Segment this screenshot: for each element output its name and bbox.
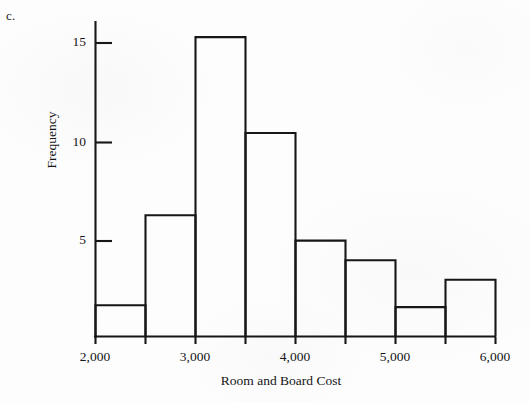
x-tick-label-4000: 4,000 bbox=[280, 349, 311, 364]
y-tick-label-5: 5 bbox=[79, 232, 86, 247]
x-tick-label-2000: 2,000 bbox=[80, 349, 111, 364]
histogram-bar bbox=[396, 307, 446, 336]
histogram-bars bbox=[96, 37, 496, 336]
histogram-bar bbox=[296, 241, 346, 337]
y-tick-label-10: 10 bbox=[73, 134, 87, 149]
y-tick-marks bbox=[96, 43, 112, 241]
y-tick-label-15: 15 bbox=[73, 34, 87, 49]
histogram-bar bbox=[146, 215, 196, 336]
histogram-plot: 15 10 5 Frequency 2,000 3,000 4,000 5,00… bbox=[0, 0, 530, 403]
histogram-bar bbox=[196, 37, 246, 336]
histogram-bar bbox=[446, 280, 496, 337]
x-tick-label-3000: 3,000 bbox=[180, 349, 211, 364]
histogram-bar bbox=[96, 305, 146, 336]
histogram-bar bbox=[246, 133, 296, 336]
y-axis-title: Frequency bbox=[44, 111, 59, 168]
histogram-figure: c. 15 10 5 Frequency bbox=[0, 0, 530, 403]
x-axis-title: Room and Board Cost bbox=[221, 373, 342, 388]
histogram-bar bbox=[346, 260, 396, 336]
x-tick-label-5000: 5,000 bbox=[380, 349, 411, 364]
x-tick-marks bbox=[96, 337, 496, 344]
x-tick-label-6000: 6,000 bbox=[480, 349, 511, 364]
